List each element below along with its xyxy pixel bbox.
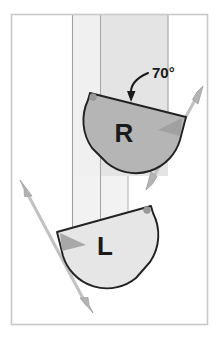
shape-l-label: L bbox=[97, 231, 113, 261]
corner-dot-l bbox=[144, 207, 151, 214]
figure-container: R L 70° bbox=[0, 0, 222, 340]
shape-r-label: R bbox=[115, 118, 134, 148]
angle-label: 70° bbox=[152, 64, 175, 81]
orientation-diagram: R L 70° bbox=[0, 0, 222, 340]
corner-dot-r bbox=[90, 94, 97, 101]
